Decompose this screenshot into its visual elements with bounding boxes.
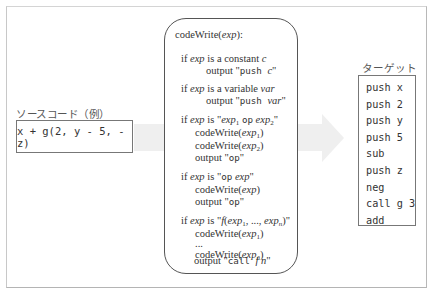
target-line: sub <box>366 146 415 163</box>
case-variable-output: output "push var" <box>206 95 286 108</box>
case-variable-condition: if exp is a variable var <box>181 83 275 96</box>
target-line: neg <box>366 180 415 197</box>
case-function-call-first: codeWrite(exp1) <box>195 228 263 241</box>
target-line: push z <box>366 163 415 180</box>
source-code-text: x + g(2, y - 5, -z) <box>17 125 132 149</box>
target-line: push y <box>366 113 415 130</box>
arrow-algorithm-to-target-head <box>322 114 344 162</box>
case-unary-condition: if exp is "op exp" <box>181 171 254 184</box>
target-line: add <box>366 213 415 230</box>
case-binary-condition: if exp is "exp1 op exp2" <box>181 114 278 127</box>
target-line: push 5 <box>366 130 415 147</box>
arrow-algorithm-to-target-body <box>298 124 322 151</box>
target-label: ターゲット <box>362 60 417 75</box>
case-unary-call: codeWrite(exp) <box>195 184 260 197</box>
codewrite-algorithm-box: codeWrite(exp): if exp is a constant c o… <box>164 18 298 274</box>
case-binary-output: output "op" <box>195 152 244 165</box>
target-line: call g 3 <box>366 196 415 213</box>
target-line: push x <box>366 80 415 97</box>
case-constant-output: output "push c" <box>206 65 276 78</box>
case-function-condition: if exp is "f(exp1, ..., expn)" <box>181 215 290 228</box>
case-binary-call-1: codeWrite(exp1) <box>195 127 263 140</box>
algorithm-title: codeWrite(exp): <box>175 29 243 42</box>
target-code-box: push x push 2 push y push 5 sub push z n… <box>358 75 416 226</box>
case-function-output: output "call f n" <box>194 255 271 268</box>
case-constant-condition: if exp is a constant c <box>181 53 266 66</box>
source-code-label: ソースコード（例） <box>16 106 110 121</box>
source-code-box: x + g(2, y - 5, -z) <box>16 120 133 153</box>
case-binary-call-2: codeWrite(exp2) <box>195 140 263 153</box>
case-unary-output: output "op" <box>195 196 244 209</box>
arrow-source-to-algorithm <box>134 124 164 151</box>
target-line: push 2 <box>366 97 415 114</box>
